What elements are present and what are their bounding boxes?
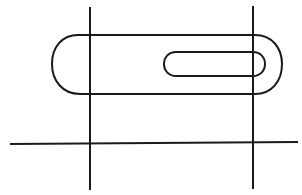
slot-diagram — [0, 0, 302, 195]
outer-slot-outline — [52, 35, 282, 94]
inner-slot-outline — [164, 52, 265, 76]
horizontal-reference-line — [10, 142, 298, 144]
